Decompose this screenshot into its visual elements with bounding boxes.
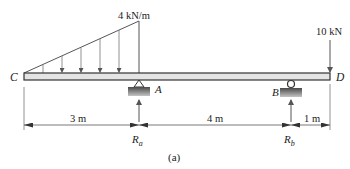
ground-hatch-icon <box>128 87 150 96</box>
distributed-load-label: 4 kN/m <box>118 10 150 21</box>
reaction-label-b: Rb <box>283 133 295 148</box>
point-label-c: C <box>10 71 18 83</box>
point-label-d: D <box>335 71 345 83</box>
point-load-label: 10 kN <box>316 26 342 37</box>
figure-caption: (a) <box>168 151 181 164</box>
roller-icon <box>288 81 295 88</box>
point-label-a: A <box>154 83 162 95</box>
beam-diagram: 4 kN/m C D A B 10 kN 3 m 4 m 1 m Ra Rb (… <box>0 0 350 169</box>
dimension-lines: 3 m 4 m 1 m <box>24 113 330 125</box>
dimension-label-bd: 1 m <box>304 113 320 124</box>
beam <box>24 73 330 80</box>
roller-support-b <box>280 81 302 98</box>
distributed-load: 4 kN/m <box>24 10 150 73</box>
dimension-label-ab: 4 m <box>207 113 223 124</box>
point-load: 10 kN <box>316 26 342 72</box>
dimension-label-ca: 3 m <box>70 113 86 124</box>
pin-support-a <box>128 80 150 96</box>
ground-hatch-icon <box>280 88 302 97</box>
reaction-label-a: Ra <box>131 133 143 148</box>
point-label-b: B <box>272 86 279 98</box>
